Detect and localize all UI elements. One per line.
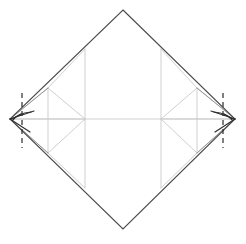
left-flap-bottom-edge (10, 119, 30, 132)
crease-lower-left-diag (48, 153, 85, 188)
crease-lower-right-diag (161, 153, 197, 188)
crease-left-diamond-upper (48, 88, 85, 119)
left-tip-fold-upper (10, 88, 48, 119)
dashed-fold-lines (22, 93, 223, 148)
tip-fold-layer (10, 88, 235, 153)
paper-outline (10, 10, 235, 229)
origami-figure (0, 0, 246, 244)
crease-right-diamond-lower (161, 119, 197, 153)
origami-diagram-canvas (0, 0, 246, 244)
crease-layer (10, 49, 235, 188)
crease-right-diamond-upper (161, 88, 197, 119)
crease-upper-left-diag (48, 49, 85, 88)
right-flap-bottom-edge (215, 119, 235, 132)
crease-upper-right-diag (161, 49, 197, 88)
crease-left-diamond-lower (48, 119, 85, 153)
right-tip-fold-upper (197, 88, 235, 119)
